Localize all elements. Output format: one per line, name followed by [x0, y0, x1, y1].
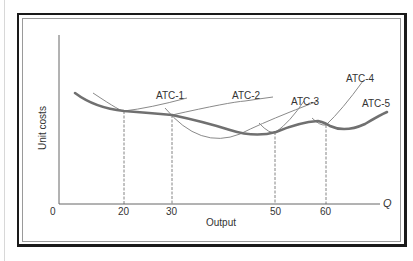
tick-50: 50 [270, 206, 282, 217]
label-atc-3: ATC-3 [291, 96, 320, 107]
q-axis-label: Q [383, 197, 392, 209]
envelope-curve [75, 93, 387, 135]
label-atc-4: ATC-4 [346, 73, 375, 84]
tick-20: 20 [118, 206, 130, 217]
chart-canvas: ATC-1 ATC-2 ATC-3 ATC-4 ATC-5 0 20 30 50… [0, 0, 413, 261]
label-atc-5: ATC-5 [362, 98, 391, 109]
tick-0: 0 [50, 206, 56, 217]
x-axis-title: Output [206, 217, 236, 228]
tick-60: 60 [320, 206, 332, 217]
label-atc-2: ATC-2 [232, 90, 261, 101]
label-atc-1: ATC-1 [156, 90, 185, 101]
tick-30: 30 [166, 206, 178, 217]
atc-4-curve [312, 81, 363, 125]
y-axis-title: Unit costs [37, 106, 48, 150]
